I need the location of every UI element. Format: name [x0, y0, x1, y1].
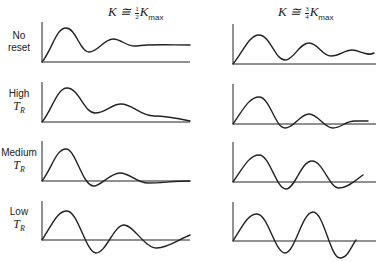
curve-medium-tr-three-quarter: [233, 155, 363, 189]
curve-high-tr-three-quarter: [233, 97, 368, 128]
curve-no-reset-three-quarter: [233, 35, 374, 64]
axes-left-column: [42, 22, 190, 240]
curve-low-tr-three-quarter: [233, 212, 356, 258]
curve-no-reset-half: [42, 28, 190, 62]
axes-right-column: [233, 24, 376, 241]
curve-high-tr-half: [42, 88, 190, 122]
curve-low-tr-half: [42, 211, 190, 253]
curve-medium-tr-half: [42, 149, 190, 186]
response-plots: [0, 0, 379, 262]
